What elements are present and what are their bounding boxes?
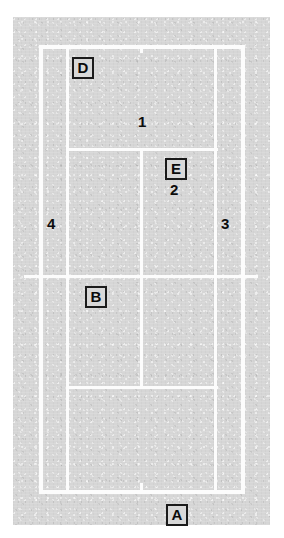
court-line-top-center-mark xyxy=(140,45,143,53)
court-line-center-service-line xyxy=(140,148,143,389)
number-label-1: 1 xyxy=(138,114,146,130)
label-a: A xyxy=(166,504,188,526)
number-label-3: 3 xyxy=(221,216,229,232)
number-label-2: 2 xyxy=(170,182,178,198)
court-line-left-doubles-sideline xyxy=(39,45,43,494)
label-b: B xyxy=(85,286,107,308)
tennis-court-diagram: D E B A 1 2 3 4 xyxy=(0,0,284,538)
label-d: D xyxy=(72,57,94,79)
court-line-left-singles-sideline xyxy=(66,45,69,494)
label-e: E xyxy=(165,158,187,180)
court-line-bottom-center-mark xyxy=(140,483,143,492)
court-line-right-doubles-sideline xyxy=(241,45,245,494)
court-line-right-singles-sideline xyxy=(214,45,217,494)
number-label-4: 4 xyxy=(47,216,55,232)
